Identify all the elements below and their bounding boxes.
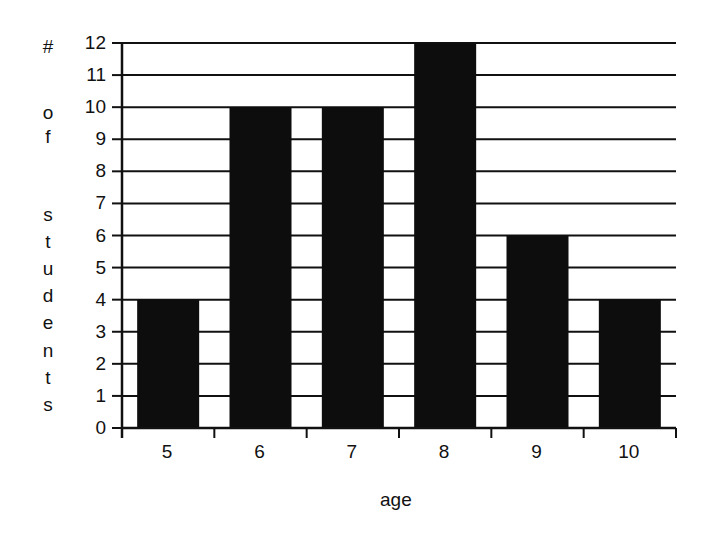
x-tick-label: 7	[322, 442, 382, 461]
y-axis-label-letter: s	[38, 205, 58, 224]
y-tick-label: 4	[66, 290, 106, 309]
x-tick-label: 5	[137, 442, 197, 461]
x-tick-label: 10	[599, 442, 659, 461]
y-axis-label-letter: #	[38, 37, 58, 56]
bar-chart: 01234567891011125678910#ofstudentsage	[0, 0, 706, 541]
y-tick-label: 11	[66, 65, 106, 84]
y-tick-label: 1	[66, 386, 106, 405]
y-tick-label: 7	[66, 193, 106, 212]
bar-9	[507, 236, 569, 429]
x-axis-label: age	[380, 490, 412, 509]
y-axis-label-letter: u	[38, 259, 58, 278]
y-tick-label: 8	[66, 161, 106, 180]
x-tick-label: 8	[414, 442, 474, 461]
y-axis-label-letter: o	[38, 103, 58, 122]
y-tick-label: 12	[66, 33, 106, 52]
y-axis-label-letter: f	[38, 127, 58, 146]
y-axis-label-letter: t	[38, 368, 58, 387]
y-axis-label-letter: t	[38, 232, 58, 251]
y-tick-label: 0	[66, 418, 106, 437]
bar-6	[230, 107, 292, 428]
y-axis-label-letter: d	[38, 286, 58, 305]
y-axis-label-letter: n	[38, 341, 58, 360]
y-axis-label-letter: s	[38, 395, 58, 414]
bar-8	[414, 43, 476, 428]
y-tick-label: 6	[66, 226, 106, 245]
y-tick-label: 3	[66, 322, 106, 341]
y-tick-label: 9	[66, 129, 106, 148]
y-tick-label: 10	[66, 97, 106, 116]
x-tick-label: 9	[507, 442, 567, 461]
bar-10	[599, 300, 661, 428]
y-tick-label: 5	[66, 258, 106, 277]
y-axis-label-letter: e	[38, 313, 58, 332]
bar-5	[137, 300, 199, 428]
bar-7	[322, 107, 384, 428]
y-tick-label: 2	[66, 354, 106, 373]
x-tick-label: 6	[230, 442, 290, 461]
